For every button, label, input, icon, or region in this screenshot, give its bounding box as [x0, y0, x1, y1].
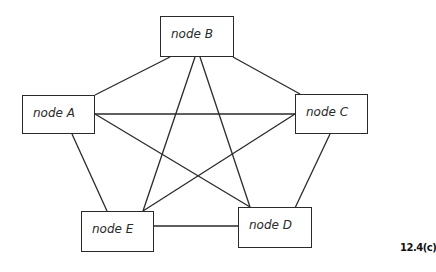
- node-e-label: node E: [92, 222, 133, 236]
- figure-label: 12.4(c): [400, 242, 436, 253]
- edge-b-c: [233, 57, 300, 94]
- edge-a-d: [95, 114, 250, 207]
- edge-b-d: [200, 57, 250, 207]
- node-b-label: node B: [171, 27, 213, 41]
- edge-b-e: [143, 57, 195, 211]
- edge-b-a: [95, 57, 170, 95]
- node-a: node A: [22, 95, 95, 134]
- node-c-label: node C: [306, 105, 348, 119]
- edge-c-d: [295, 134, 330, 208]
- edge-c-e: [143, 114, 295, 211]
- node-a-label: node A: [33, 106, 75, 120]
- node-b: node B: [160, 16, 234, 57]
- node-d: node D: [238, 207, 312, 248]
- node-d-label: node D: [249, 218, 292, 232]
- node-c: node C: [295, 94, 368, 134]
- edge-a-e: [72, 134, 107, 211]
- node-e: node E: [81, 211, 154, 252]
